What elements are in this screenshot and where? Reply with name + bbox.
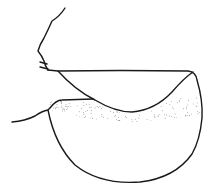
stem-line [38,8,65,70]
inner-curve [58,71,193,112]
line-drawing [0,0,209,188]
spike-1 [40,62,47,64]
top-edge [48,70,202,182]
